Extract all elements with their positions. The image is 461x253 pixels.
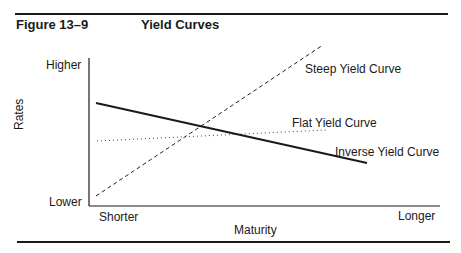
yield-chart [0,0,461,253]
bottom-rule [17,241,450,243]
x-tick-shorter: Shorter [99,210,138,224]
flat-curve [97,130,327,141]
flat-curve-label: Flat Yield Curve [292,116,377,130]
steep-curve-label: Steep Yield Curve [305,62,401,76]
y-axis-label: Rates [12,99,26,130]
y-tick-lower: Lower [49,195,82,209]
x-tick-longer: Longer [398,209,435,223]
steep-curve [96,45,323,196]
inverse-curve-label: Inverse Yield Curve [335,145,439,159]
x-axis-label: Maturity [234,223,277,237]
inverse-curve [96,103,367,163]
y-tick-higher: Higher [46,58,81,72]
